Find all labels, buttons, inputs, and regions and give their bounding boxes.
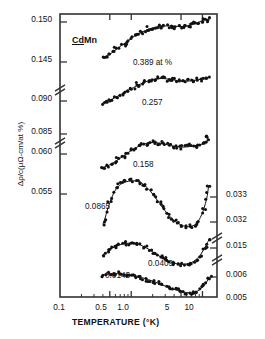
x-tick-10b: 10 — [177, 303, 201, 311]
y-tick-0090: 0.090 — [10, 94, 52, 102]
x-tick-5: 5 — [155, 303, 179, 311]
right-tick-0006: 0.006 — [226, 270, 247, 278]
series-0158 — [100, 134, 210, 170]
y-tick-0150: 0.150 — [10, 15, 52, 23]
series-label-00865: 0.0865 — [85, 203, 110, 211]
right-tick-0032: 0.032 — [226, 215, 247, 223]
series-0389at — [102, 16, 211, 59]
right-tick-0005: 0.005 — [226, 293, 247, 301]
series-label-0158: 0.158 — [133, 161, 154, 169]
series-label-0389: 0.389 at % — [133, 59, 172, 67]
y-tick-0055: 0.055 — [10, 187, 52, 195]
y-tick-0085: 0.085 — [10, 127, 52, 135]
figure: Δρ/c(μΩ-cm/at %) CdMn 0.150 0.145 0.090 … — [0, 0, 265, 339]
right-tick-0033: 0.033 — [226, 190, 247, 198]
x-tick-10: 1.0 — [108, 303, 138, 311]
x-tick-01: 0.1 — [44, 303, 74, 311]
series-label-00409: 0.0409 — [148, 260, 173, 268]
x-axis-title: TEMPERATURE (°K) — [72, 318, 159, 327]
series-label-00143: 0.0143 — [105, 272, 130, 280]
series-label-0257: 0.257 — [142, 99, 163, 107]
scatter-plot-canvas — [0, 0, 265, 339]
series-00865 — [103, 178, 212, 230]
y-tick-0145: 0.145 — [10, 55, 52, 63]
y-tick-0060: 0.060 — [10, 147, 52, 155]
right-tick-0015: 0.015 — [226, 241, 247, 249]
sample-label: CdMn — [72, 36, 97, 45]
